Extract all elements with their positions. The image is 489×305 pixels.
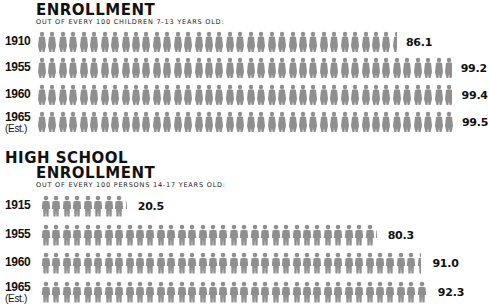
person-icon [177, 281, 187, 303]
person-icon [371, 31, 381, 53]
person-icon [183, 111, 193, 133]
person-icon [104, 281, 114, 303]
person-icon [396, 281, 406, 303]
person-icon [256, 111, 266, 133]
estimate-note: (Est.) [5, 123, 31, 134]
person-icon [37, 84, 47, 106]
person-icon [93, 224, 103, 246]
person-icon [239, 224, 249, 246]
person-icon [375, 252, 385, 274]
person-icon [235, 57, 245, 79]
person-icon [125, 281, 135, 303]
person-icon [214, 57, 224, 79]
person-icon [166, 252, 176, 274]
chart-row: 196091.0 [0, 252, 489, 276]
person-icon [406, 281, 416, 303]
person-icon [260, 252, 270, 274]
person-icon [292, 281, 302, 303]
person-icon [72, 224, 82, 246]
person-icon [423, 57, 433, 79]
person-icon [183, 31, 193, 53]
person-icon [114, 224, 124, 246]
person-icon [125, 195, 127, 217]
person-icon [41, 281, 51, 303]
person-icon [72, 281, 82, 303]
person-icon [444, 111, 453, 133]
person-icon [62, 195, 72, 217]
person-icon [288, 111, 298, 133]
person-icon [312, 281, 322, 303]
person-icon [135, 224, 145, 246]
person-icon [204, 84, 214, 106]
person-icon [340, 57, 350, 79]
person-icon [141, 111, 151, 133]
year-label: 1965(Est.) [5, 112, 31, 134]
person-icon [79, 84, 89, 106]
person-icon [235, 84, 245, 106]
person-icon [344, 252, 354, 274]
person-icon [198, 224, 208, 246]
person-icon [93, 281, 103, 303]
person-icon [260, 224, 270, 246]
person-icon [281, 224, 291, 246]
person-icon [312, 224, 322, 246]
person-icon [365, 252, 375, 274]
person-icon [361, 111, 371, 133]
person-icon [319, 84, 329, 106]
person-icon [434, 111, 444, 133]
pictograph-bar [41, 252, 421, 274]
value-label: 20.5 [138, 200, 164, 213]
person-icon [340, 31, 350, 53]
person-icon [340, 111, 350, 133]
person-icon [250, 252, 260, 274]
person-icon [271, 252, 281, 274]
person-icon [162, 84, 172, 106]
person-icon [162, 57, 172, 79]
person-icon [402, 57, 412, 79]
person-icon [246, 31, 256, 53]
person-icon [256, 84, 266, 106]
person-icon [229, 281, 239, 303]
person-icon [308, 31, 318, 53]
person-icon [288, 57, 298, 79]
person-icon [125, 224, 135, 246]
person-icon [93, 252, 103, 274]
person-icon [125, 252, 135, 274]
person-icon [302, 224, 312, 246]
year-text: 1965 [5, 280, 31, 294]
person-icon [79, 111, 89, 133]
person-icon [292, 252, 302, 274]
person-icon [235, 31, 245, 53]
person-icon [100, 57, 110, 79]
person-icon [131, 111, 141, 133]
person-icon [277, 31, 287, 53]
person-icon [83, 252, 93, 274]
person-icon [156, 281, 166, 303]
person-icon [371, 84, 381, 106]
person-icon [145, 281, 155, 303]
person-icon [246, 84, 256, 106]
person-icon [402, 84, 412, 106]
person-icon [162, 31, 172, 53]
chart-row: 1965(Est.)99.5 [0, 111, 489, 135]
pictograph-bar [37, 57, 452, 79]
person-icon [323, 281, 333, 303]
year-text: 1915 [5, 198, 31, 212]
person-icon [375, 224, 377, 246]
person-icon [104, 195, 114, 217]
estimate-note: (Est.) [5, 293, 31, 304]
person-icon [72, 195, 82, 217]
person-icon [302, 252, 312, 274]
person-icon [333, 281, 343, 303]
person-icon [121, 84, 131, 106]
person-icon [298, 57, 308, 79]
person-icon [114, 195, 124, 217]
person-icon [329, 31, 339, 53]
person-icon [51, 252, 61, 274]
person-icon [381, 31, 391, 53]
person-icon [41, 195, 51, 217]
person-icon [121, 111, 131, 133]
person-icon [381, 84, 391, 106]
person-icon [323, 224, 333, 246]
person-icon [51, 281, 61, 303]
